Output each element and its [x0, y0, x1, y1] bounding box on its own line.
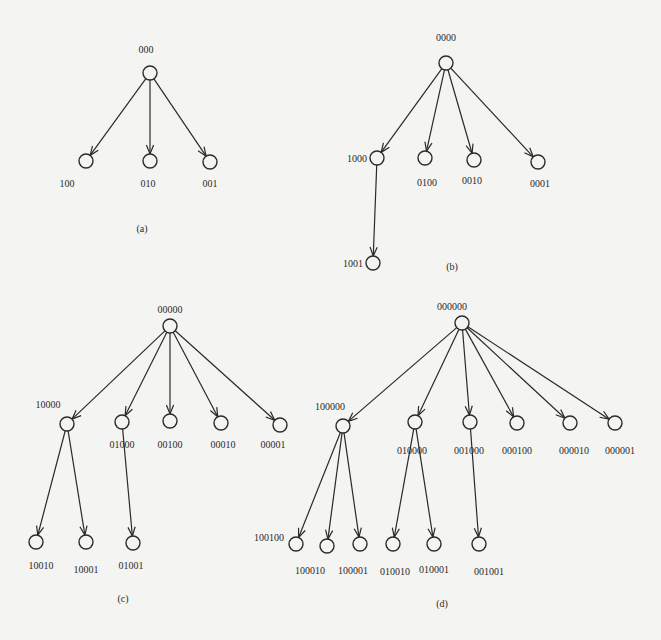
node-label: 000 — [139, 44, 154, 55]
edge-100000-100100 — [299, 433, 341, 538]
node-label: 0100 — [417, 177, 437, 188]
tree-b: 000010000100001000011001(b) — [343, 32, 550, 273]
node-00001: 00001 — [261, 418, 288, 450]
node-circle-icon — [203, 155, 217, 169]
node-circle-icon — [386, 537, 400, 551]
edge-000-001 — [154, 79, 206, 156]
node-label: 100100 — [254, 532, 284, 543]
node-000000: 000000 — [437, 301, 469, 330]
node-label: 010 — [141, 178, 156, 189]
node-010: 010 — [141, 154, 158, 189]
node-circle-icon — [143, 154, 157, 168]
node-10000: 10000 — [36, 399, 75, 431]
node-label: 000100 — [502, 445, 532, 456]
node-100001: 100001 — [338, 537, 368, 576]
caption-c: (c) — [117, 593, 128, 605]
edge-1000-1001 — [370, 165, 377, 256]
node-00010: 00010 — [211, 416, 236, 450]
node-label: 00010 — [211, 439, 236, 450]
edge-0000-1000 — [381, 69, 442, 153]
edge-000000-010000 — [418, 329, 459, 415]
node-label: 0001 — [530, 178, 550, 189]
node-01001: 01001 — [119, 536, 144, 571]
edge-0000-0100 — [425, 70, 445, 151]
edge-00000-00100 — [166, 333, 173, 414]
node-000010: 000010 — [559, 416, 589, 456]
node-1001: 1001 — [343, 256, 380, 270]
node-label: 000001 — [605, 445, 635, 456]
node-label: 1000 — [347, 153, 367, 164]
node-circle-icon — [143, 66, 157, 80]
node-label: 00001 — [261, 439, 286, 450]
node-label: 100010 — [295, 565, 325, 576]
edge-10000-10001 — [68, 431, 87, 535]
node-label: 10000 — [36, 399, 61, 410]
node-circle-icon — [510, 416, 524, 430]
node-label: 10001 — [74, 564, 99, 575]
node-circle-icon — [320, 539, 334, 553]
node-circle-icon — [408, 415, 422, 429]
node-circle-icon — [60, 417, 74, 431]
node-000: 000 — [139, 44, 158, 80]
node-circle-icon — [336, 419, 350, 433]
node-100000: 100000 — [315, 401, 350, 433]
node-label: 01001 — [119, 560, 144, 571]
node-label: 10010 — [29, 560, 54, 571]
edge-10000-10010 — [37, 431, 66, 535]
tree-d: 0000001000000100000010000001000000100000… — [254, 301, 635, 610]
node-00100: 00100 — [158, 414, 183, 450]
node-001000: 001000 — [454, 415, 484, 456]
edge-000000-000100 — [465, 329, 513, 417]
node-circle-icon — [366, 256, 380, 270]
node-label: 00000 — [158, 304, 183, 315]
node-circle-icon — [455, 316, 469, 330]
node-circle-icon — [126, 536, 140, 550]
node-circle-icon — [273, 418, 287, 432]
arrowhead-icon — [600, 411, 610, 419]
node-label: 010010 — [380, 566, 410, 577]
arrowhead-icon — [198, 147, 206, 156]
node-0100: 0100 — [417, 151, 437, 188]
edge-000000-100000 — [348, 328, 456, 422]
node-circle-icon — [79, 535, 93, 549]
node-label: 1001 — [343, 258, 363, 269]
node-circle-icon — [467, 153, 481, 167]
node-label: 0010 — [462, 175, 482, 186]
arrowhead-icon — [506, 407, 513, 417]
node-10010: 10010 — [29, 535, 54, 571]
node-100100: 100100 — [254, 532, 303, 551]
node-label: 001001 — [474, 566, 504, 577]
edge-0000-0001 — [451, 68, 533, 157]
node-circle-icon — [29, 535, 43, 549]
node-label: 001000 — [454, 445, 484, 456]
node-10001: 10001 — [74, 535, 99, 575]
node-circle-icon — [353, 537, 367, 551]
node-circle-icon — [79, 154, 93, 168]
edge-00000-10000 — [72, 331, 165, 419]
node-000100: 000100 — [502, 416, 532, 456]
edge-100000-100001 — [344, 433, 361, 537]
node-label: 100000 — [315, 401, 345, 412]
node-0000: 0000 — [436, 32, 456, 70]
node-1000: 1000 — [347, 151, 384, 165]
node-circle-icon — [163, 319, 177, 333]
node-circle-icon — [115, 415, 129, 429]
edge-0000-0010 — [448, 70, 473, 154]
node-label: 100001 — [338, 565, 368, 576]
caption-a: (a) — [136, 223, 147, 235]
node-circle-icon — [370, 151, 384, 165]
node-circle-icon — [439, 56, 453, 70]
node-circle-icon — [563, 416, 577, 430]
tree-c: 0000010000010000010000010000011001010001… — [29, 304, 288, 605]
node-label: 0000 — [436, 32, 456, 43]
node-000001: 000001 — [605, 416, 635, 456]
node-010001: 010001 — [419, 537, 449, 575]
edge-00000-00010 — [173, 332, 217, 417]
node-01000: 01000 — [110, 415, 135, 450]
node-circle-icon — [463, 415, 477, 429]
edge-00000-01000 — [125, 332, 167, 415]
node-circle-icon — [214, 416, 228, 430]
edge-000000-000010 — [467, 328, 565, 418]
node-circle-icon — [531, 155, 545, 169]
node-circle-icon — [289, 537, 303, 551]
